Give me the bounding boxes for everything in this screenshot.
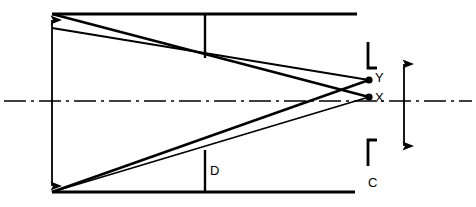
label-point-x: X: [375, 90, 384, 105]
ray-diagram-canvas: Y X D C: [0, 0, 476, 207]
label-dimension-c: C: [368, 175, 377, 190]
point-x-marker: [365, 93, 372, 100]
point-y-marker: [365, 76, 372, 83]
label-point-y: Y: [375, 70, 384, 85]
bracket-top-corner: [368, 42, 377, 68]
ray-top-secondary-to-point-y: [52, 28, 369, 80]
ray-top-apex-to-point-x: [52, 14, 369, 97]
diagram-svg: Y X D C: [0, 0, 476, 207]
label-dimension-d: D: [210, 163, 219, 178]
bracket-bottom-corner: [368, 140, 377, 166]
